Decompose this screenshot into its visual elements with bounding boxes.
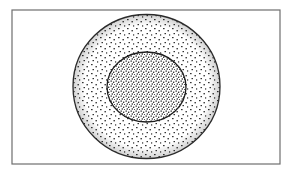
diagram (0, 0, 291, 172)
inner-ellipse (107, 52, 186, 122)
